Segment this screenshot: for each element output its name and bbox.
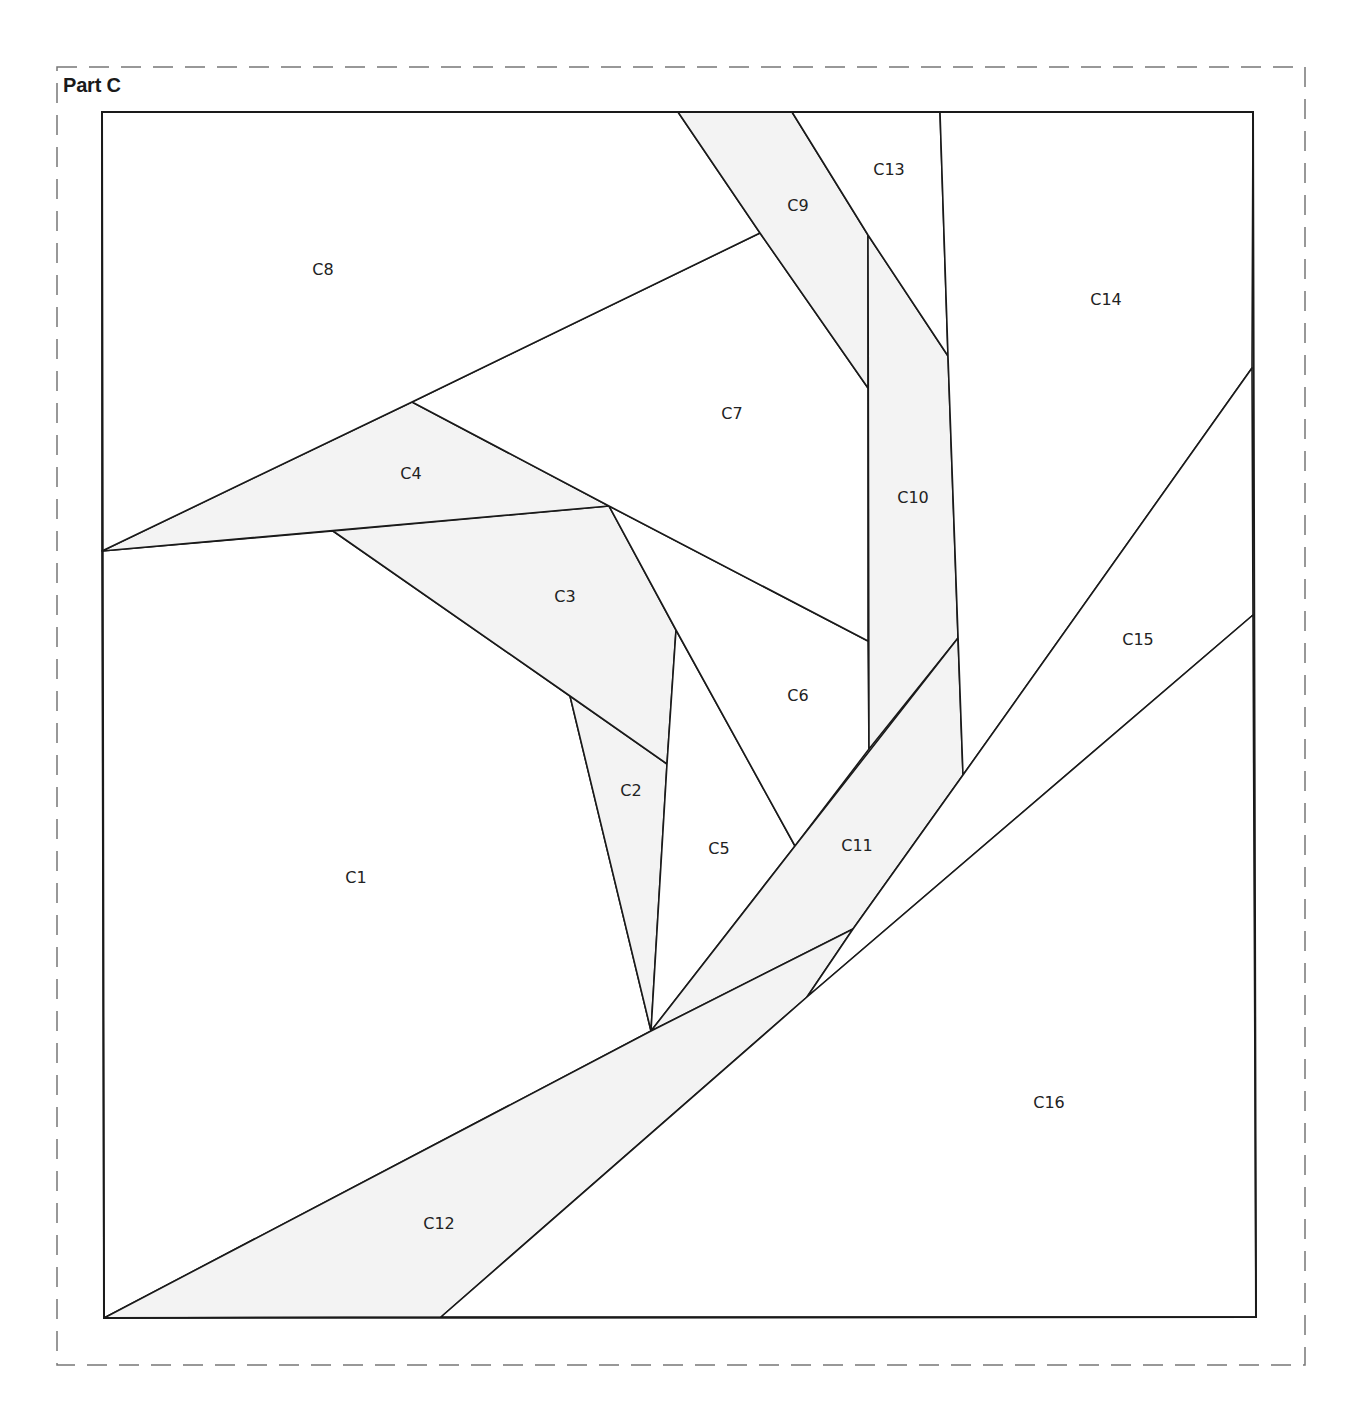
piece-label-c4: C4: [400, 464, 421, 483]
piece-label-c13: C13: [873, 160, 905, 179]
piece-label-c9: C9: [787, 196, 808, 215]
pattern-canvas: [0, 0, 1359, 1424]
piece-label-c11: C11: [841, 836, 873, 855]
piece-label-c6: C6: [787, 686, 808, 705]
part-title: Part C: [63, 74, 121, 97]
piece-label-c7: C7: [721, 404, 742, 423]
piece-label-c3: C3: [554, 587, 575, 606]
piece-label-c5: C5: [708, 839, 729, 858]
pieces-layer: [102, 112, 1256, 1318]
piece-label-c2: C2: [620, 781, 641, 800]
piece-label-c15: C15: [1122, 630, 1154, 649]
piece-label-c1: C1: [345, 868, 366, 887]
piece-label-c8: C8: [312, 260, 333, 279]
piece-label-c14: C14: [1090, 290, 1122, 309]
piece-label-c10: C10: [897, 488, 929, 507]
piece-label-c16: C16: [1033, 1093, 1065, 1112]
piece-label-c12: C12: [423, 1214, 455, 1233]
